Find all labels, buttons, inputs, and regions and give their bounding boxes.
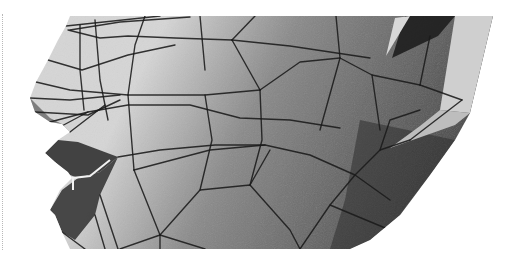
mesh-canvas [0, 0, 510, 259]
face-mesh-render: Grayscale rendered 3D polygon face mesh,… [0, 0, 510, 259]
